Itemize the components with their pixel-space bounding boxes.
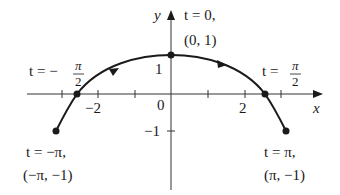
label-coord-start: (−π, −1) [23,167,72,184]
y-axis-label: y [152,7,161,23]
point-end [283,128,290,135]
label-frac-num: π [292,58,299,73]
x-axis [27,90,323,98]
y-axis-arrow-icon [167,10,175,20]
x-axis-arrow-icon [313,90,323,98]
x-tick-label-2: 2 [239,100,247,116]
label-t-half-pi: t = [262,63,278,79]
direction-arrow-icon [109,68,119,76]
label-t-start: t = −π, [26,144,66,160]
label-coord-zero: (0, 1) [184,32,217,49]
point-start [53,128,60,135]
y-tick-label-neg1: −1 [144,123,160,139]
x-axis-label: x [312,100,320,116]
label-t-end: t = π, [264,144,295,160]
parametric-diagram: y x 0 −2 2 1 −1 t = 0, (0, 1) t = − π 2 … [0,0,340,195]
label-t-zero: t = 0, [184,7,215,23]
label-frac-den: 2 [292,74,299,89]
label-frac-den-neg: 2 [75,74,82,89]
x-tick-label-neg2: −2 [85,100,101,116]
label-frac-num-neg: π [75,58,82,73]
origin-label: 0 [157,97,165,113]
point-half-pi [262,91,269,98]
label-coord-end: (π, −1) [264,167,305,184]
y-tick-label-1: 1 [155,61,163,77]
point-neg-half-pi [74,91,81,98]
point-zero [168,52,175,59]
label-t-neg-half-pi: t = − [29,63,58,79]
y-axis [167,10,175,190]
